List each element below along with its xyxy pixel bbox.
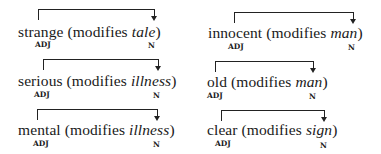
arrow-icon: [151, 16, 157, 21]
phrase: serious (modifies illness): [18, 73, 176, 89]
noun-tag: N: [348, 43, 355, 52]
adj-tag: ADJ: [34, 90, 50, 99]
noun-tag: N: [148, 41, 155, 50]
phrase: clear (modifies sign): [207, 122, 337, 138]
dependency-arc: [43, 59, 159, 70]
adj-tag: ADJ: [35, 40, 51, 49]
adj-tag: ADJ: [228, 42, 244, 51]
adj-tag: ADJ: [207, 91, 223, 100]
adj-tag: ADJ: [215, 139, 231, 148]
phrase: mental (modifies illness): [18, 122, 175, 138]
noun-tag: N: [153, 140, 160, 149]
arrow-icon: [155, 66, 161, 71]
noun-tag: N: [153, 91, 160, 100]
phrase: innocent (modifies man): [208, 25, 363, 41]
noun-tag: N: [309, 92, 316, 101]
phrase: old (modifies man): [207, 74, 328, 90]
dependency-arc: [38, 9, 155, 20]
phrase: strange (modifies tale): [18, 24, 161, 40]
adj-tag: ADJ: [33, 139, 49, 148]
noun-tag: N: [320, 141, 327, 150]
dependency-arc: [221, 110, 325, 121]
dependency-arc: [234, 12, 354, 23]
dependency-arc: [37, 109, 158, 120]
dependency-arc: [215, 61, 314, 72]
